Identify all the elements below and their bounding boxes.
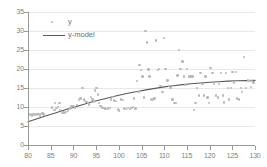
x-axis-tick-mark — [28, 146, 29, 150]
legend-label-y-model: y-model — [68, 30, 95, 40]
legend-item-y: y — [42, 16, 120, 29]
x-axis-tick-mark — [142, 146, 143, 150]
y-axis-tick-label: 10 — [2, 103, 24, 111]
x-axis-tick-mark — [119, 146, 120, 150]
scatter-point — [252, 81, 254, 83]
scatter-point — [222, 94, 224, 96]
scatter-point — [183, 75, 185, 77]
chart-container: 05101520253035 8085909510010511011512012… — [0, 0, 267, 167]
x-axis-tick-label: 95 — [84, 152, 108, 160]
x-axis-tick-mark — [232, 146, 233, 150]
y-axis-tick-label: 30 — [2, 27, 24, 35]
scatter-point — [159, 85, 161, 87]
y-axis-tick-mark — [24, 69, 28, 70]
x-axis-tick-label: 100 — [107, 152, 131, 160]
legend-label-y: y — [68, 17, 72, 27]
scatter-point — [81, 87, 83, 89]
scatter-point — [184, 84, 186, 86]
x-axis-tick-label: 105 — [130, 152, 154, 160]
x-axis-tick-mark — [187, 146, 188, 150]
legend-marker-line-icon — [43, 35, 65, 36]
x-axis-tick-mark — [96, 146, 97, 150]
scatter-point — [171, 98, 173, 100]
x-axis-tick-mark — [51, 146, 52, 150]
scatter-point — [233, 81, 235, 83]
x-axis-tick-mark — [255, 146, 256, 150]
scatter-point — [146, 41, 148, 43]
scatter-point — [179, 68, 181, 70]
scatter-point — [97, 93, 99, 95]
scatter-point — [176, 74, 178, 76]
y-axis-tick-mark — [24, 12, 28, 13]
scatter-point — [164, 68, 166, 70]
scatter-point — [199, 72, 201, 74]
scatter-point — [204, 75, 206, 77]
scatter-point — [155, 39, 157, 41]
y-axis-tick-label: 35 — [2, 8, 24, 16]
y-axis-tick-label: 5 — [2, 122, 24, 130]
scatter-point — [147, 68, 149, 70]
x-axis-tick-label: 90 — [61, 152, 85, 160]
chart-legend: y y-model — [42, 16, 120, 42]
x-axis-tick-label: 115 — [175, 152, 199, 160]
scatter-point — [134, 107, 136, 109]
scatter-point — [110, 98, 112, 100]
x-axis-tick-mark — [210, 146, 211, 150]
x-axis-tick-label: 130 — [243, 152, 267, 160]
scatter-point — [181, 60, 183, 62]
y-axis-tick-label: 15 — [2, 84, 24, 92]
scatter-point — [238, 98, 240, 100]
x-axis-tick-mark — [164, 146, 165, 150]
x-axis-tick-label: 80 — [16, 152, 40, 160]
scatter-point — [95, 87, 97, 89]
scatter-point — [53, 109, 55, 111]
scatter-point — [217, 96, 219, 98]
scatter-point — [166, 79, 168, 81]
scatter-point — [141, 75, 143, 77]
y-axis-tick-label: 25 — [2, 46, 24, 54]
x-axis-tick-label: 110 — [152, 152, 176, 160]
y-model-line — [28, 80, 255, 121]
y-axis-tick-mark — [24, 126, 28, 127]
scatter-point — [153, 97, 155, 99]
scatter-point — [231, 71, 233, 73]
scatter-point — [169, 87, 171, 89]
scatter-point — [161, 91, 163, 93]
y-axis-tick-mark — [24, 88, 28, 89]
scatter-point — [206, 96, 208, 98]
y-axis-tick-label: 20 — [2, 65, 24, 73]
scatter-point — [228, 98, 230, 100]
scatter-point — [79, 97, 81, 99]
scatter-point — [109, 107, 111, 109]
y-axis-tick-mark — [24, 50, 28, 51]
legend-marker-dot-icon — [51, 21, 53, 23]
x-axis-tick-label: 120 — [198, 152, 222, 160]
scatter-point — [192, 75, 194, 77]
x-axis-tick-mark — [73, 146, 74, 150]
y-axis-tick-labels: 05101520253035 — [0, 0, 24, 167]
y-axis-tick-mark — [24, 107, 28, 108]
legend-item-y-model: y-model — [42, 29, 120, 42]
x-axis-tick-label: 85 — [39, 152, 63, 160]
scatter-point — [198, 94, 200, 96]
y-axis-tick-mark — [24, 31, 28, 32]
y-axis-tick-label: 0 — [2, 141, 24, 149]
scatter-point — [211, 72, 213, 74]
scatter-point — [148, 75, 150, 77]
scatter-point — [93, 100, 95, 102]
scatter-point — [144, 30, 146, 32]
scatter-point — [43, 113, 45, 115]
x-axis-tick-label: 125 — [220, 152, 244, 160]
y-axis-line — [28, 12, 29, 145]
